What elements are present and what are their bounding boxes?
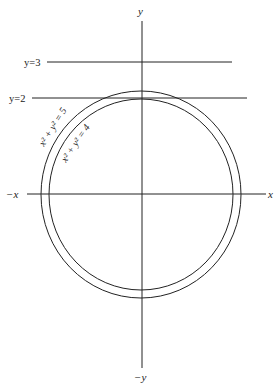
coordinate-diagram: y −y x −x y=3 y=2 x² + y² = 5 x² + y² = … <box>0 0 278 386</box>
line-y-3-label: y=3 <box>24 57 40 68</box>
line-y-2-label: y=2 <box>9 93 25 104</box>
x-axis-positive-label: x <box>267 188 273 200</box>
x-axis-negative-label: −x <box>6 188 18 200</box>
y-axis-positive-label: y <box>137 5 143 17</box>
y-axis-negative-label: −y <box>134 371 146 383</box>
